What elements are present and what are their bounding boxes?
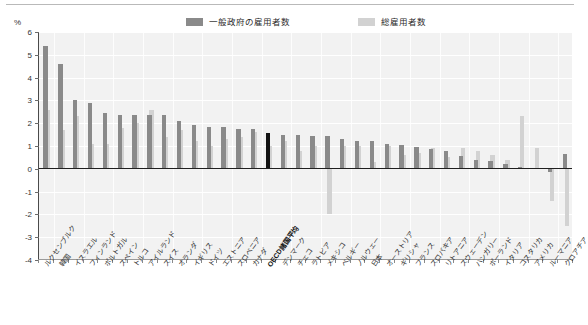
bar-government-employment — [251, 129, 255, 169]
bar-series-container — [39, 32, 572, 259]
legend-label-total: 総雇用者数 — [381, 18, 426, 27]
legend-swatch-government — [186, 18, 203, 26]
plot-area — [38, 32, 572, 260]
bar-government-employment — [147, 115, 151, 169]
bar-government-employment — [385, 144, 389, 169]
bar-government-employment — [370, 141, 374, 168]
bar-government-employment — [88, 103, 92, 169]
bar-total-employment — [327, 169, 331, 215]
chart-legend: 一般政府の雇用者数 総雇用者数 — [0, 14, 580, 30]
y-axis-tick-label: -3 — [25, 233, 32, 242]
bar-total-employment — [550, 169, 554, 201]
legend-swatch-total — [358, 18, 375, 26]
zero-baseline — [39, 168, 572, 169]
y-axis-tick-label: -2 — [25, 210, 32, 219]
bar-government-employment — [162, 115, 166, 169]
bar-government-employment — [103, 113, 107, 169]
bar-government-employment — [192, 125, 196, 168]
bar-government-employment — [459, 156, 463, 169]
y-axis-tick-label: 6 — [28, 28, 32, 37]
bar-government-employment — [296, 135, 300, 169]
plot-background — [38, 32, 572, 260]
y-axis-tick-label: 3 — [28, 96, 32, 105]
legend-item-total: 総雇用者数 — [358, 18, 426, 27]
y-axis-labels: 6543210-1-2-3-4 — [0, 32, 38, 260]
legend-label-government: 一般政府の雇用者数 — [209, 18, 290, 27]
bar-government-employment — [221, 127, 225, 169]
bar-government-employment — [177, 121, 181, 169]
bar-government-employment — [236, 129, 240, 169]
y-axis-tick-label: -1 — [25, 187, 32, 196]
bar-government-employment — [325, 136, 329, 169]
bar-government-employment — [563, 154, 567, 169]
bar-government-employment — [118, 115, 122, 169]
bar-government-employment — [73, 100, 77, 168]
y-axis-tick-label: 4 — [28, 73, 32, 82]
bar-government-employment — [414, 147, 418, 169]
bar-total-employment — [520, 116, 524, 168]
y-axis-tick-label: 2 — [28, 119, 32, 128]
top-divider — [6, 4, 574, 5]
bar-government-employment — [399, 145, 403, 169]
bar-total-employment — [535, 148, 539, 169]
x-axis-labels: ルクセンブルク韓国イスラエルフィンランドポルトガルスペイントルコアイルランドスイ… — [0, 262, 580, 325]
bar-government-employment — [132, 115, 136, 169]
bar-government-employment — [429, 149, 433, 168]
y-axis-tick-label: 0 — [28, 164, 32, 173]
bar-government-employment — [281, 135, 285, 169]
bar-government-employment — [266, 133, 270, 168]
bar-government-employment — [355, 141, 359, 168]
bar-government-employment — [310, 136, 314, 169]
bar-government-employment — [58, 64, 62, 169]
bar-government-employment — [207, 127, 211, 169]
bar-government-employment — [444, 151, 448, 169]
y-axis-tick-label: 1 — [28, 142, 32, 151]
bar-government-employment — [43, 46, 47, 169]
bar-government-employment — [340, 139, 344, 169]
y-axis-tick-label: 5 — [28, 50, 32, 59]
legend-item-government: 一般政府の雇用者数 — [186, 18, 290, 27]
bar-total-employment — [565, 169, 569, 226]
